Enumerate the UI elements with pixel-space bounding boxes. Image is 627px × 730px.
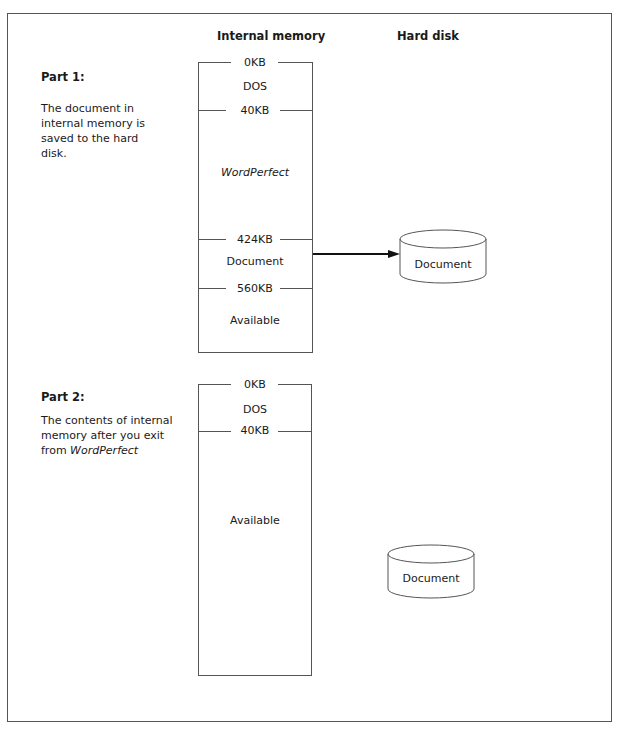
diagram-lines bbox=[0, 0, 627, 730]
part1-segment-available: Available bbox=[198, 314, 312, 327]
part1-segment-document: Document bbox=[198, 255, 312, 268]
part2-marker-0kb: 0KB bbox=[198, 378, 312, 391]
part1-disk-label: Document bbox=[400, 258, 486, 271]
part2-marker-40kb: 40KB bbox=[198, 424, 312, 437]
part1-marker-424kb: 424KB bbox=[198, 233, 312, 246]
part2-segment-available: Available bbox=[198, 514, 312, 527]
part1-segment-dos: DOS bbox=[198, 80, 312, 93]
part2-disk-label: Document bbox=[388, 572, 474, 585]
part2-segment-dos: DOS bbox=[198, 403, 312, 416]
part1-marker-560kb: 560KB bbox=[198, 282, 312, 295]
part1-marker-0kb: 0KB bbox=[198, 56, 312, 69]
part1-marker-40kb: 40KB bbox=[198, 104, 312, 117]
part1-segment-wordperfect: WordPerfect bbox=[198, 166, 312, 179]
